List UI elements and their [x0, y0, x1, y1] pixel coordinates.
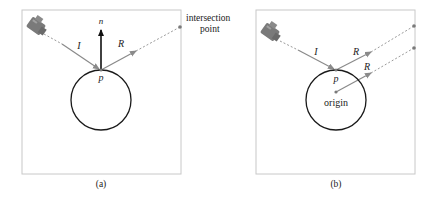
label-p: p: [98, 72, 104, 83]
caption-b: (b): [330, 179, 341, 190]
caption-a: (a): [96, 179, 107, 190]
reflection-diagram: n I R p intersection point (a) I R R p o…: [0, 0, 435, 197]
intersection-dot-1: [412, 24, 416, 28]
label-n: n: [99, 16, 104, 26]
label-origin: origin: [324, 97, 348, 108]
reflected-ray-R: [101, 51, 136, 70]
label-R-2: R: [363, 61, 370, 72]
panel-a: n I R p intersection point (a): [22, 10, 231, 190]
intersection-dot: [178, 25, 182, 29]
label-R: R: [117, 38, 124, 49]
label-point: point: [200, 24, 220, 34]
camera-icon: [260, 19, 285, 43]
label-intersection: intersection: [186, 13, 231, 23]
incident-dashed-ray: [44, 34, 62, 44]
label-I: I: [313, 46, 318, 57]
reflected-dashed-ray-2: [371, 48, 414, 73]
point-p-dot: [335, 69, 338, 72]
intersection-dot-2: [412, 46, 416, 50]
origin-dot: [334, 90, 337, 93]
label-R-1: R: [352, 46, 359, 57]
panel-b: I R R p origin (b): [256, 10, 416, 190]
label-p: p: [333, 73, 339, 84]
camera-icon: [26, 13, 51, 37]
incident-dashed-ray: [280, 41, 298, 50]
reflected-dashed-ray: [136, 27, 180, 51]
reflected-dashed-ray-1: [371, 26, 414, 52]
label-I: I: [76, 40, 81, 51]
